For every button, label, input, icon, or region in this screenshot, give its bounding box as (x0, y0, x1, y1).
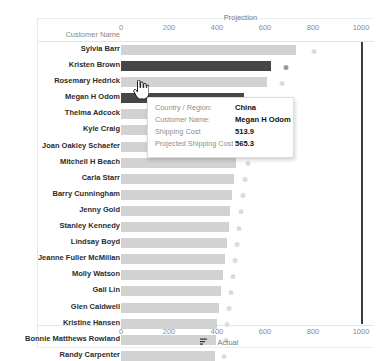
actual-bar[interactable] (121, 190, 232, 200)
projection-marker[interactable] (235, 242, 240, 247)
row-label[interactable]: Joan Oakley Schaefer (42, 141, 120, 150)
projection-marker[interactable] (227, 306, 232, 311)
chart-row[interactable]: Randy Carpenter (0, 348, 385, 361)
chart-row[interactable]: Barry Cunningham (0, 187, 385, 203)
chart-row[interactable]: Gail Lin (0, 283, 385, 299)
projection-marker[interactable] (237, 226, 242, 231)
top-tick-label: 1000 (353, 23, 370, 32)
row-label[interactable]: Kristen Brown (69, 60, 120, 69)
projection-marker[interactable] (225, 322, 230, 327)
sort-descending-icon[interactable] (200, 338, 207, 348)
row-track (121, 187, 385, 203)
row-label[interactable]: Jenny Gold (79, 205, 120, 214)
bar-chart-viz: Projection 02004006008001000 02004006008… (0, 0, 385, 361)
row-track (121, 348, 385, 361)
actual-bar[interactable] (121, 286, 221, 296)
projection-marker[interactable] (311, 49, 316, 54)
row-label[interactable]: Thelma Adcock (65, 108, 120, 117)
actual-bar[interactable] (121, 61, 271, 71)
chart-row[interactable]: Stanley Kennedy (0, 219, 385, 235)
actual-bar[interactable] (121, 206, 230, 216)
row-track (121, 42, 385, 58)
row-label[interactable]: Jeanne Fuller McMillan (38, 253, 120, 262)
projection-marker[interactable] (245, 161, 250, 166)
chart-row[interactable]: Jeanne Fuller McMillan (0, 251, 385, 267)
row-track (121, 235, 385, 251)
tooltip-value: 513.9 (235, 127, 254, 138)
row-column-header: Customer Name (65, 30, 120, 39)
chart-row[interactable]: Kristen Brown (0, 58, 385, 74)
actual-bar[interactable] (121, 351, 215, 361)
projection-marker[interactable] (243, 177, 248, 182)
tooltip-key: Shipping Cost (155, 127, 235, 138)
bottom-axis-label: Actual (0, 338, 385, 348)
tooltip-row: Customer Name:Megan H Odom (155, 115, 286, 126)
projection-marker[interactable] (279, 81, 284, 86)
actual-bar[interactable] (121, 319, 217, 329)
row-label[interactable]: Kristine Hansen (63, 318, 120, 327)
chart-row[interactable]: Molly Watson (0, 267, 385, 283)
top-tick-label: 400 (211, 23, 224, 32)
row-track (121, 58, 385, 74)
projection-marker[interactable] (284, 65, 289, 70)
row-label[interactable]: Mitchell H Beach (60, 157, 120, 166)
row-track (121, 267, 385, 283)
projection-marker[interactable] (240, 193, 245, 198)
actual-bar[interactable] (121, 45, 296, 55)
projection-marker[interactable] (221, 354, 226, 359)
row-label[interactable]: Megan H Odom (65, 92, 120, 101)
row-track (121, 203, 385, 219)
chart-row[interactable]: Kristine Hansen (0, 316, 385, 332)
row-label[interactable]: Glen Caldwell (71, 302, 120, 311)
row-label[interactable]: Sylvia Barr (81, 44, 120, 53)
row-label[interactable]: Randy Carpenter (60, 350, 120, 359)
actual-bar[interactable] (121, 303, 219, 313)
tooltip-key: Country / Region: (155, 103, 235, 114)
chart-row[interactable]: Rosemary Hedrick (0, 74, 385, 90)
reference-line (361, 42, 363, 324)
row-track (121, 219, 385, 235)
actual-bar[interactable] (121, 158, 236, 168)
projection-marker[interactable] (231, 274, 236, 279)
projection-marker[interactable] (229, 290, 234, 295)
row-label[interactable]: Gail Lin (92, 285, 120, 294)
chart-row[interactable]: Carla Starr (0, 171, 385, 187)
top-axis-title: Projection (0, 13, 385, 22)
row-label[interactable]: Lindsay Boyd (71, 237, 120, 246)
actual-bar[interactable] (121, 238, 227, 248)
row-track (121, 171, 385, 187)
tooltip-value: 565.3 (235, 139, 254, 150)
actual-bar[interactable] (121, 222, 229, 232)
row-track (121, 251, 385, 267)
chart-row[interactable]: Jenny Gold (0, 203, 385, 219)
row-track (121, 316, 385, 332)
chart-row[interactable]: Sylvia Barr (0, 42, 385, 58)
tooltip-key: Customer Name: (155, 115, 235, 126)
row-label[interactable]: Barry Cunningham (52, 189, 120, 198)
row-label[interactable]: Molly Watson (72, 269, 120, 278)
tooltip-value: China (235, 103, 256, 114)
row-label[interactable]: Rosemary Hedrick (54, 76, 120, 85)
top-tick-label: 200 (163, 23, 176, 32)
tooltip-key: Projected Shipping Cost (155, 139, 235, 150)
projection-marker[interactable] (233, 258, 238, 263)
tooltip-row: Country / Region:China (155, 103, 286, 114)
tooltip-row: Projected Shipping Cost565.3 (155, 139, 286, 150)
tooltip-value: Megan H Odom (235, 115, 291, 126)
row-track (121, 283, 385, 299)
actual-bar[interactable] (121, 254, 225, 264)
row-label[interactable]: Stanley Kennedy (60, 221, 120, 230)
mouse-cursor-pointer (133, 80, 149, 100)
actual-bar[interactable] (121, 270, 223, 280)
row-label[interactable]: Carla Starr (82, 173, 120, 182)
actual-bar[interactable] (121, 174, 234, 184)
chart-row[interactable]: Lindsay Boyd (0, 235, 385, 251)
bottom-axis-label-text: Actual (218, 338, 239, 347)
projection-marker[interactable] (239, 209, 244, 214)
tooltip-row: Shipping Cost513.9 (155, 127, 286, 138)
row-track (121, 300, 385, 316)
chart-row[interactable]: Glen Caldwell (0, 300, 385, 316)
row-label[interactable]: Kyle Craig (83, 124, 120, 133)
top-tick-label: 800 (307, 23, 320, 32)
top-tick-label: 600 (259, 23, 272, 32)
